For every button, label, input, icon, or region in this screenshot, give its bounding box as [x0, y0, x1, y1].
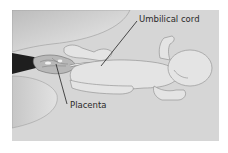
label-umbilical-cord: Umbilical cord: [139, 14, 200, 24]
umbilical-cord-leader-line: [101, 21, 137, 66]
label-placenta: Placenta: [70, 100, 107, 110]
placenta-leader-line: [56, 64, 67, 104]
illustration-frame: Umbilical cord Placenta: [12, 10, 219, 141]
leader-lines: [12, 10, 219, 141]
